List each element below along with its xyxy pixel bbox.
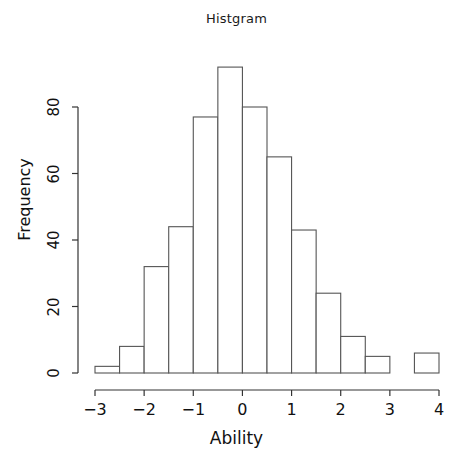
histogram-bar	[218, 67, 243, 373]
y-tick-label: 40	[45, 220, 63, 260]
x-tick-label: 2	[321, 400, 361, 419]
histogram-bar	[242, 107, 267, 373]
histogram-bar	[414, 353, 439, 373]
x-tick-label: −2	[124, 400, 164, 419]
x-tick-label: 1	[272, 400, 312, 419]
y-tick-label: 20	[45, 287, 63, 327]
y-tick-label: 0	[45, 353, 63, 393]
histogram-bar	[341, 336, 366, 373]
histogram-bars	[95, 67, 439, 373]
y-axis	[72, 107, 78, 373]
histogram-bar	[193, 117, 218, 373]
histogram-figure: Histgram Frequency Ability 020406080−3−2…	[0, 0, 473, 468]
x-axis-title: Ability	[0, 428, 473, 448]
x-axis	[95, 390, 439, 396]
plot-area	[0, 0, 473, 468]
x-tick-label: 4	[419, 400, 459, 419]
histogram-bar	[95, 366, 120, 373]
histogram-bar	[144, 267, 169, 373]
y-tick-label: 80	[45, 87, 63, 127]
x-tick-label: −3	[75, 400, 115, 419]
histogram-bar	[316, 293, 341, 373]
histogram-bar	[267, 157, 292, 373]
histogram-bar	[292, 230, 317, 373]
y-axis-title: Frequency	[15, 130, 34, 270]
x-tick-label: 3	[370, 400, 410, 419]
x-tick-label: −1	[173, 400, 213, 419]
histogram-bar	[365, 356, 390, 373]
x-tick-label: 0	[222, 400, 262, 419]
y-tick-label: 60	[45, 154, 63, 194]
histogram-bar	[120, 346, 145, 373]
histogram-bar	[169, 227, 194, 373]
